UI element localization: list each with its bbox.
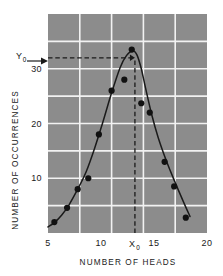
data-point (129, 46, 135, 52)
x0-label-subscript: 0 (136, 244, 140, 251)
x0-label: X (129, 239, 135, 249)
x-axis-title: NUMBER OF HEADS (80, 258, 177, 267)
x-tick-label: 10 (96, 238, 107, 248)
x-tick-label: 5 (45, 238, 50, 248)
y0-label-subscript: 0 (23, 56, 27, 63)
data-point (121, 77, 127, 83)
data-point (96, 131, 102, 137)
data-point (51, 219, 57, 225)
y-tick-label: 10 (31, 173, 42, 183)
x-tick-label: 15 (149, 238, 160, 248)
y-tick-label: 30 (31, 64, 42, 74)
data-point (162, 159, 168, 165)
y-tick-label: 20 (31, 119, 42, 129)
y-axis-title: NUMBER OF OCCURRENCES (11, 90, 20, 230)
data-point (85, 175, 91, 181)
y0-label: Y (16, 51, 22, 61)
data-point (183, 215, 189, 221)
data-point (64, 205, 70, 211)
data-point (171, 183, 177, 189)
binomial-distribution-chart: 102030 5101520 Y 0 X 0 NUMBER OF HEADS N… (0, 0, 223, 276)
data-point (75, 186, 81, 192)
x-tick-label: 20 (202, 238, 213, 248)
plot-area (48, 14, 207, 233)
data-point (109, 88, 115, 94)
data-point (147, 109, 153, 115)
data-point (138, 100, 144, 106)
